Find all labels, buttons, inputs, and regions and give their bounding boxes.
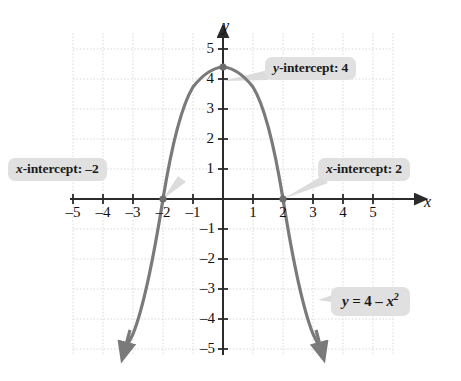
- y-tick-label: 4: [196, 70, 214, 87]
- y-intercept-callout: y-intercept: 4: [265, 57, 356, 80]
- x-intercept-negative-callout-variable: x: [16, 161, 23, 176]
- equation-exponent: 2: [394, 291, 399, 302]
- x-tick-label: 4: [335, 204, 351, 221]
- y-tick-label: 5: [196, 40, 214, 57]
- x-intercept-negative-callout: x-intercept: –2: [8, 158, 107, 181]
- x-tick-label: 1: [245, 204, 261, 221]
- x-tick-label: –4: [93, 204, 113, 221]
- x-tick-label: –1: [183, 204, 203, 221]
- x-axis-label: x: [424, 193, 431, 211]
- y-tick-label: –4: [189, 310, 215, 327]
- x-intercept-positive-callout-text: -intercept: 2: [333, 161, 402, 176]
- x-intercept-negative-callout-text: -intercept: –2: [23, 161, 99, 176]
- y-axis-label: y: [222, 17, 229, 35]
- x-intercept-negative-marker: [159, 195, 166, 202]
- x-tick-label: 3: [305, 204, 321, 221]
- y-intercept-callout-text: -intercept: 4: [279, 60, 348, 75]
- coordinate-plane: [0, 0, 461, 381]
- y-tick-label: 2: [196, 130, 214, 147]
- x-intercept-positive-callout-variable: x: [326, 161, 333, 176]
- graph-figure: y x –5 –4 –3 –2 –1 1 2 3 4 5 5 4 3 2 1 –…: [0, 0, 461, 381]
- equation-rhs-variable: x: [386, 293, 393, 309]
- x-tick-label: –3: [123, 204, 143, 221]
- y-tick-label: 1: [196, 160, 214, 177]
- callout-leader-lines: [163, 70, 338, 303]
- y-tick-label: –3: [189, 280, 215, 297]
- x-tick-label: 5: [365, 204, 381, 221]
- equation-relation: = 4 –: [349, 293, 387, 309]
- x-tick-label: –2: [153, 204, 173, 221]
- x-tick-label: 2: [275, 204, 291, 221]
- x-intercept-positive-callout: x-intercept: 2: [318, 158, 410, 181]
- y-tick-label: –5: [189, 340, 215, 357]
- equation-callout: y = 4 – x2: [331, 287, 410, 316]
- y-tick-label: –1: [189, 220, 215, 237]
- x-tick-label: –5: [63, 204, 83, 221]
- y-tick-label: –2: [189, 250, 215, 267]
- vertex-point-marker: [219, 63, 226, 70]
- y-tick-label: 3: [196, 100, 214, 117]
- x-intercept-positive-marker: [279, 195, 286, 202]
